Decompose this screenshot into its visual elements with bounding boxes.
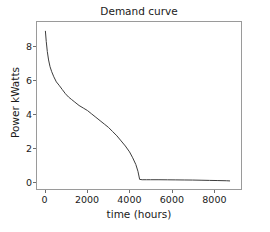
y-tick-label: 6 [26,74,32,85]
x-axis-label: time (hours) [36,208,242,221]
chart-screenshot: Demand curve 02000400060008000 02468 tim… [0,0,270,232]
y-axis-label: Power kWatts [9,18,22,188]
x-tick-mark [214,190,215,193]
x-tick-label: 0 [41,194,47,205]
x-tick-label: 6000 [160,194,184,205]
x-tick-label: 8000 [202,194,226,205]
x-tick-mark [172,190,173,193]
y-tick-mark [33,80,36,81]
x-tick-mark [129,190,130,193]
y-tick-mark [33,114,36,115]
chart-title: Demand curve [36,5,242,18]
y-tick-label: 2 [26,143,32,154]
y-tick-mark [33,182,36,183]
x-tick-label: 4000 [117,194,141,205]
plot-area [36,21,242,190]
matplotlib-figure: Demand curve 02000400060008000 02468 tim… [0,0,270,232]
x-tick-mark [87,190,88,193]
x-tick-mark [45,190,46,193]
y-tick-label: 4 [26,109,32,120]
y-tick-label: 0 [26,177,32,188]
demand-curve-line [37,22,241,189]
y-tick-mark [33,148,36,149]
y-tick-mark [33,46,36,47]
x-tick-label: 2000 [75,194,99,205]
y-tick-label: 8 [26,40,32,51]
